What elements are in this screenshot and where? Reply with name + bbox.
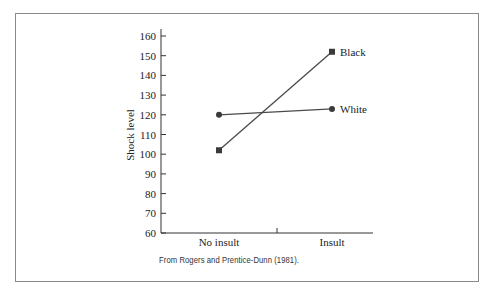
series-label-white: White bbox=[340, 103, 367, 115]
y-tick-label: 110 bbox=[140, 129, 157, 141]
square-marker bbox=[216, 147, 222, 153]
square-marker bbox=[329, 49, 335, 55]
x-category-label: No insult bbox=[199, 236, 240, 248]
series-label-black: Black bbox=[340, 46, 366, 58]
y-axis-label: Shock level bbox=[124, 109, 136, 161]
y-tick-label: 100 bbox=[140, 148, 157, 160]
circle-marker bbox=[216, 112, 222, 118]
y-tick-label: 120 bbox=[140, 109, 157, 121]
y-tick-label: 150 bbox=[140, 50, 157, 62]
y-tick-label: 90 bbox=[145, 168, 157, 180]
y-tick-label: 160 bbox=[140, 30, 157, 42]
x-category-label: Insult bbox=[319, 236, 344, 248]
y-tick-label: 130 bbox=[140, 89, 157, 101]
y-tick-label: 80 bbox=[145, 188, 157, 200]
y-tick-label: 70 bbox=[145, 207, 157, 219]
figure-caption: From Rogers and Prentice-Dunn (1981). bbox=[159, 255, 299, 265]
y-tick-label: 60 bbox=[145, 227, 157, 239]
series-line-black bbox=[219, 52, 332, 151]
y-tick-label: 140 bbox=[140, 69, 157, 81]
line-chart: 60708090100110120130140150160Shock level… bbox=[0, 0, 496, 297]
circle-marker bbox=[329, 106, 335, 112]
series-line-white bbox=[219, 109, 332, 115]
